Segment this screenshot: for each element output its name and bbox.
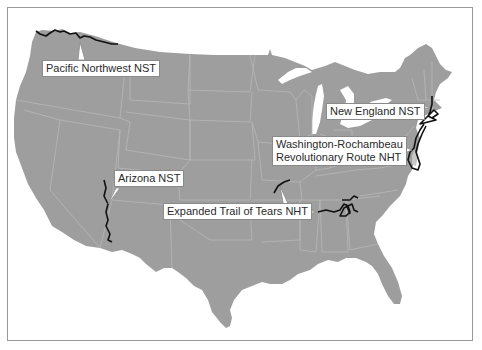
label-washington-rochambeau-nht: Washington-Rochambeau Revolutionary Rout… [272,136,407,166]
label-text-line-1: Washington-Rochambeau [276,138,403,151]
label-expanded-trail-of-tears-nht: Expanded Trail of Tears NHT [163,203,312,220]
us-map [0,0,482,350]
label-arizona-nst: Arizona NST [114,170,184,187]
label-text: Pacific Northwest NST [46,62,156,75]
label-text-line-2: Revolutionary Route NHT [276,151,403,164]
label-text: New England NST [330,105,421,118]
label-new-england-nst: New England NST [326,103,425,120]
label-text: Arizona NST [118,172,180,185]
label-pacific-northwest-nst: Pacific Northwest NST [42,60,160,77]
label-text: Expanded Trail of Tears NHT [167,205,308,218]
